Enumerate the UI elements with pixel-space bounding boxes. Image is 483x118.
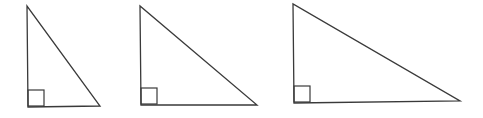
right-angle-marker — [294, 86, 310, 102]
right-angle-marker — [28, 90, 44, 106]
triangle-outline — [293, 4, 460, 103]
right-angle-marker — [141, 88, 157, 104]
right-triangle-2 — [140, 6, 257, 105]
right-triangle-3 — [293, 4, 460, 103]
right-triangle-1 — [27, 6, 100, 107]
triangle-outline — [27, 6, 100, 107]
triangles-diagram — [0, 0, 483, 118]
